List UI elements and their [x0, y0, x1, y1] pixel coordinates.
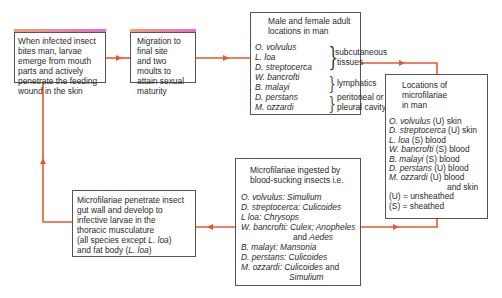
species-name: B. malayi — [255, 82, 299, 92]
location-line: tissues — [335, 57, 387, 67]
text-line: parts and actively — [18, 66, 102, 76]
text-line: final site — [137, 46, 189, 56]
species-name: M. ozzardi — [255, 102, 298, 112]
box-title: Male and female adult locations in man — [268, 16, 350, 36]
adult-locations-box: Male and female adult locations in man O… — [250, 12, 361, 115]
text-line: and fat body (L. loa) — [77, 245, 191, 255]
text-line: attain sexual — [137, 76, 189, 86]
title-line: microfilariae — [402, 90, 447, 100]
legend-sheathed: (S) = sheathed — [389, 202, 478, 211]
species-group-1: O. volvulus L. loa D. streptocerca — [255, 42, 312, 72]
title-line: Microfilariae ingested by — [250, 165, 344, 175]
vector-list: O. volvulus: Simulium D. streptocerca: C… — [241, 192, 355, 282]
text-line: emerge from mouth — [18, 56, 102, 66]
list-item-continuation: and Aedes — [241, 232, 355, 242]
list-item: D. perstans: Culicoides — [241, 252, 355, 262]
microfilariae-locations-box: Locations of microfilariae in man O. vol… — [385, 74, 488, 219]
arrowhead-up-icon — [40, 158, 46, 164]
arrowhead-right-icon — [116, 55, 122, 61]
text-line: infective larvae in the — [77, 215, 191, 225]
arrowhead-right-icon — [393, 224, 399, 230]
list-item: M. ozzardi: Culicoides and — [241, 262, 355, 272]
species-name: D. streptocerca — [255, 62, 312, 72]
box-title: Locations of microfilariae in man — [402, 80, 447, 110]
text-line: maturity — [137, 86, 189, 96]
text-line: Microfilariae penetrate insect — [77, 195, 191, 205]
insect-development-box: Microfilariae penetrate insect gut wall … — [72, 190, 196, 257]
text-line: moults to — [137, 66, 189, 76]
list-item: O. volvulus: Simulium — [241, 192, 355, 202]
location-line: subcutaneous — [335, 47, 387, 57]
text-line: When infected insect — [18, 36, 102, 46]
species-name: L. loa — [255, 52, 312, 62]
species-group-3: D. perstans M. ozzardi — [255, 92, 298, 112]
title-line: in man — [402, 100, 447, 110]
list-item: B. malayi: Mansonia — [241, 242, 355, 252]
location-2: lymphatics — [337, 78, 377, 88]
arrowhead-left-icon — [207, 224, 213, 230]
text-line: gut wall and develop to — [77, 205, 191, 215]
text-line: bites man, larvae — [18, 46, 102, 56]
title-line: Male and female adult — [268, 16, 350, 26]
list-item: W. bancrofti: Culex; Anopheles — [241, 222, 355, 232]
step-migration-box: Migration to final site and two moults t… — [130, 32, 196, 83]
list-item-continuation: Simulium — [241, 272, 355, 282]
species-name: W. bancrofti — [255, 72, 299, 82]
list-item: D. streptocerca: Culicoides — [241, 202, 355, 212]
text-line: wound in the skin — [18, 86, 102, 96]
brace-icon: } — [328, 94, 335, 113]
insect-vectors-box: Microfilariae ingested by blood-sucking … — [235, 158, 361, 286]
location-line: peritoneal or — [337, 92, 386, 102]
title-line: blood-sucking insects i.e. — [250, 175, 344, 185]
species-name: O. volvulus — [255, 42, 312, 52]
location-3: peritoneal or pleural cavity — [337, 92, 386, 112]
species-name: D. perstans — [255, 92, 298, 102]
location-list: O. volvulus (U) skin D. streptocerca (U)… — [389, 117, 478, 211]
list-item: L loa: Chrysops — [241, 212, 355, 222]
location-1: subcutaneous tissues — [335, 47, 387, 67]
species-group-2: W. bancrofti B. malayi — [255, 72, 299, 92]
location-line: pleural cavity — [337, 102, 386, 112]
text-line: and two — [137, 56, 189, 66]
arrowhead-right-icon — [223, 55, 229, 61]
text-line: (all species except L. loa) — [77, 235, 191, 245]
step-infection-box: When infected insect bites man, larvae e… — [14, 32, 106, 83]
text-line: penetrate the feeding — [18, 76, 102, 86]
arrowhead-right-icon — [399, 60, 405, 66]
brace-icon: } — [328, 74, 335, 93]
title-line: Locations of — [402, 80, 447, 90]
box-title: Microfilariae ingested by blood-sucking … — [250, 165, 344, 185]
text-line: Migration to — [137, 36, 189, 46]
title-line: locations in man — [268, 26, 350, 36]
text-line: thoracic musculature — [77, 225, 191, 235]
